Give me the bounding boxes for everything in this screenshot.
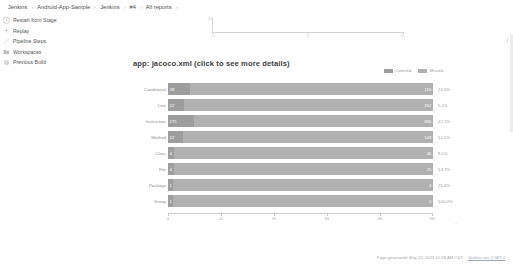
breadcrumb-item-all-reports[interactable]: All reports [146,4,172,10]
breadcrumb: Jenkins › Android-App-Sample › Jenkins ›… [0,0,513,14]
chart-title[interactable]: app: jacoco.xml (click to see more detai… [133,59,290,68]
scrollbar-thumb[interactable] [510,34,513,132]
category-label: Conditional [144,87,166,92]
mini-axis-tick-label: 0 [213,34,215,38]
bar-missed[interactable]: 1 3 [168,179,433,191]
breadcrumb-item-jenkins[interactable]: Jenkins [8,4,27,10]
legend-swatch-covered [384,69,393,73]
sidebar-item-restart-from-stage[interactable]: Restart from Stage [3,16,118,24]
table-row[interactable]: Instruction 275 696 42.1% [133,115,433,127]
bar-value-covered: 4 [170,151,172,156]
x-axis-tick-label: 0 [167,216,169,221]
breadcrumb-separator: › [136,4,146,10]
sidebar-item-label: Restart from Stage [13,17,57,23]
bar-value-missed: 25 [427,167,432,172]
legend-item-missed[interactable]: Missed [418,68,443,73]
bar-value-covered: 22 [170,135,175,140]
bar-value-covered: 4 [170,167,172,172]
sidebar-item-workspaces[interactable]: Workspaces [3,48,118,56]
sidebar-item-label: Previous Build [13,59,46,65]
category-label: Line [158,103,166,108]
breadcrumb-separator: › [172,4,182,10]
sidebar-item-previous-build[interactable]: Previous Build [3,58,118,66]
legend-item-covered[interactable]: Covered [384,68,411,73]
bar-missed[interactable]: 1 0 [168,195,433,207]
table-row[interactable]: Package 1 3 25.0% [133,179,433,191]
chart-x-axis: 0 20 40 60 80 100 [168,213,433,223]
x-axis-tick-label: 20 [219,216,223,221]
coverage-percent: 42.1% [438,119,450,124]
chart-legend: Covered Missed [384,68,443,73]
bar-missed[interactable]: 38 116 [168,83,433,95]
panel-divider [507,38,508,42]
table-row[interactable]: Method 22 148 10.5% [133,131,433,143]
coverage-percent: 5.4% [438,103,448,108]
bar-missed[interactable]: 22 262 [168,99,433,111]
coverage-percent: 25.0% [438,183,450,188]
pipeline-steps-icon [3,38,10,45]
coverage-percent: 100.0% [438,199,453,204]
breadcrumb-item-android-app-sample[interactable]: Android-App-Sample [37,4,90,10]
x-axis-tick-label: 100 [429,216,436,221]
coverage-chart-card: app: jacoco.xml (click to see more detai… [121,56,448,232]
mini-axis-tick-label: 4 [401,34,403,38]
category-label: File [159,167,166,172]
bar-value-covered: 275 [170,119,177,124]
sidebar: Restart from Stage Replay Pipeline Steps… [0,16,118,66]
sidebar-item-label: Pipeline Steps [13,38,46,44]
bar-missed[interactable]: 22 148 [168,131,433,143]
previous-build-icon [3,59,10,66]
footer: Page generated: May 22, 2023 10:28 AM CS… [377,255,505,260]
bar-missed[interactable]: 4 25 [168,163,433,175]
bar-value-missed: 262 [424,103,431,108]
bar-value-covered: 1 [170,199,172,204]
table-row[interactable]: File 4 25 13.7% [133,163,433,175]
bar-value-missed: 46 [427,151,432,156]
mini-axis-tick [403,32,404,34]
vertical-scrollbar[interactable] [509,0,513,265]
breadcrumb-item-jenkins-job[interactable]: Jenkins [100,4,119,10]
bar-value-missed: 0 [429,199,431,204]
coverage-percent: 24.6% [438,87,450,92]
bar-value-covered: 38 [170,87,175,92]
table-row[interactable]: Group 1 0 100.0% [133,195,433,207]
mini-axis-tick-label: 2 [307,34,309,38]
bar-missed[interactable]: 275 696 [168,115,433,127]
table-row[interactable]: Class 4 46 8.0% [133,147,433,159]
legend-swatch-missed [418,69,427,73]
x-axis-tick-label: 60 [325,216,329,221]
replay-icon [3,27,10,34]
coverage-percent: 10.5% [438,135,450,140]
legend-label: Missed [430,68,443,73]
trend-mini-axis: 4% 0 2 4 [212,18,404,40]
x-axis-line [168,213,433,214]
sidebar-item-replay[interactable]: Replay [3,27,118,35]
coverage-percent: 13.7% [438,167,450,172]
coverage-percent: 8.0% [438,151,448,156]
category-label: Group [154,199,166,204]
category-label: Instruction [146,119,166,124]
x-axis-tick-label: 40 [272,216,276,221]
workspaces-icon [3,48,10,55]
sidebar-item-label: Replay [13,28,29,34]
bar-value-covered: 1 [170,183,172,188]
breadcrumb-separator: › [119,4,129,10]
bar-missed[interactable]: 4 46 [168,147,433,159]
legend-label: Covered [395,68,411,73]
restart-icon [3,17,10,24]
jenkins-version-link[interactable]: Jenkins ver. 2.387.2 [468,255,505,260]
x-axis-tick-label: 80 [378,216,382,221]
breadcrumb-separator: › [90,4,100,10]
category-label: Package [149,183,166,188]
coverage-bar-plot: Conditional 38 116 24.6% Line 22 262 5.4… [133,83,433,211]
bar-value-missed: 3 [429,183,431,188]
breadcrumb-separator: › [27,4,37,10]
mini-axis-y-label: 4% [208,17,213,21]
category-label: Class [155,151,166,156]
table-row[interactable]: Line 22 262 5.4% [133,99,433,111]
sidebar-item-pipeline-steps[interactable]: Pipeline Steps [3,37,118,45]
page-generated-text: Page generated: May 22, 2023 10:28 AM CS… [377,255,463,260]
bar-value-covered: 22 [170,103,175,108]
chevron-right-icon[interactable]: › [455,220,457,226]
table-row[interactable]: Conditional 38 116 24.6% [133,83,433,95]
